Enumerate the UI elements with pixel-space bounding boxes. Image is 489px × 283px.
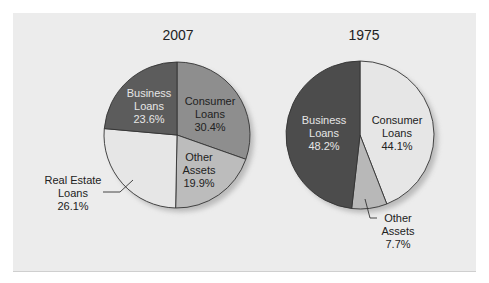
label-business-1975: BusinessLoans48.2%: [302, 114, 347, 153]
chart-title-1975: 1975: [324, 27, 404, 43]
label-business-2007: BusinessLoans23.6%: [127, 87, 172, 126]
pie-slice-real-estate-loans: [104, 129, 177, 208]
label-realestate-2007: Real EstateLoans26.1%: [45, 174, 102, 213]
label-consumer-2007: ConsumerLoans30.4%: [185, 95, 236, 134]
label-other-1975: OtherAssets7.7%: [381, 212, 414, 251]
label-consumer-1975: ConsumerLoans44.1%: [372, 114, 423, 153]
chart-title-2007: 2007: [138, 27, 218, 43]
label-other-2007: OtherAssets19.9%: [182, 151, 215, 190]
